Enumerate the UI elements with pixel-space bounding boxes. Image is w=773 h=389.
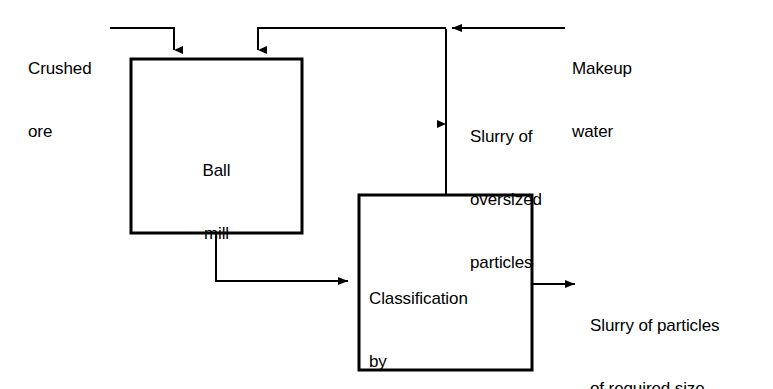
process-flow-diagram: Crushed ore Makeup water Ball mill Slurr…	[0, 0, 773, 389]
ball-mill-label: Ball mill	[131, 118, 302, 286]
oversize-recycle-label: Slurry of oversized particles	[470, 84, 542, 315]
makeup-water-to-mill-line	[258, 28, 446, 50]
oversize-recycle-label-line3: particles	[470, 252, 542, 273]
classifier-label: Classification by particle size	[369, 246, 468, 389]
makeup-water-label: Makeup water	[572, 16, 632, 184]
crushed-ore-line	[110, 28, 174, 50]
crushed-ore-label: Crushed ore	[28, 16, 92, 184]
makeup-water-label-line1: Makeup	[572, 58, 632, 79]
oversize-recycle-label-line1: Slurry of	[470, 126, 542, 147]
classifier-label-line1: Classification	[369, 288, 468, 309]
ball-mill-label-line2: mill	[131, 223, 302, 244]
product-label-line1: Slurry of particles	[590, 315, 719, 336]
crushed-ore-label-line2: ore	[28, 121, 92, 142]
makeup-water-label-line2: water	[572, 121, 632, 142]
product-label-line2: of required size	[590, 378, 719, 389]
ball-mill-label-line1: Ball	[131, 160, 302, 181]
product-label: Slurry of particles of required size	[590, 273, 719, 389]
crushed-ore-label-line1: Crushed	[28, 58, 92, 79]
oversize-recycle-label-line2: oversized	[470, 189, 542, 210]
classifier-label-line2: by	[369, 351, 468, 372]
